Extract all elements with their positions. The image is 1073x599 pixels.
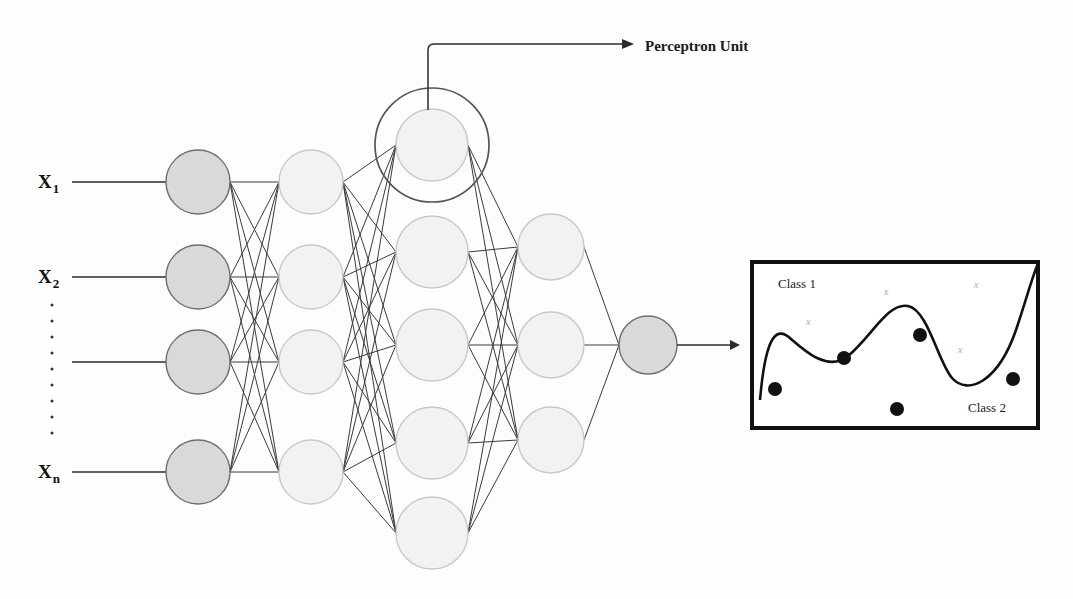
class-1-label: Class 1: [778, 276, 816, 291]
edge: [468, 145, 518, 247]
edge: [343, 145, 396, 472]
leader-path: [428, 44, 624, 110]
class-2-label: Class 2: [968, 400, 1006, 415]
input-label-base: X: [38, 461, 52, 482]
perceptron-leader-line: [428, 39, 634, 110]
node-input-layer-1: [166, 150, 230, 214]
node-hidden-layer-1-2: [279, 245, 343, 309]
input-label-subscript: 2: [53, 276, 60, 291]
perceptron-unit-label: Perceptron Unit: [645, 38, 748, 54]
ellipsis-dot: [51, 304, 54, 307]
ellipsis-dot: [51, 320, 54, 323]
node-hidden-layer-1-4: [279, 440, 343, 504]
ellipsis-dot: [51, 416, 54, 419]
ellipsis-dot: [51, 384, 54, 387]
input-connection-lines: [72, 182, 166, 472]
node-hidden-layer-1-1: [279, 150, 343, 214]
edge: [468, 440, 518, 533]
ellipsis-dot: [51, 336, 54, 339]
node-hidden-layer-3-3: [518, 407, 584, 473]
ellipsis-dot: [51, 352, 54, 355]
input-variable-labels: X1X2Xn: [38, 171, 61, 486]
edge: [343, 182, 396, 345]
classification-box: xxxx Class 1 Class 2: [752, 262, 1038, 428]
input-label-base: X: [38, 171, 52, 192]
edge: [343, 145, 396, 277]
input-label-3: Xn: [38, 461, 61, 486]
class-dot-3: [913, 328, 927, 342]
node-input-layer-2: [166, 245, 230, 309]
input-label-base: X: [38, 266, 52, 287]
node-hidden-layer-3-2: [518, 312, 584, 378]
edge: [584, 345, 619, 440]
node-hidden-layer-3-1: [518, 214, 584, 280]
edge: [343, 252, 396, 277]
leader-arrow-head: [622, 39, 634, 49]
class-dot-1: [768, 382, 782, 396]
node-hidden-layer-2-3: [396, 309, 468, 381]
class-x-mark-2: x: [883, 286, 889, 297]
network-nodes: [166, 109, 677, 569]
node-input-layer-3: [166, 330, 230, 394]
node-hidden-layer-2-2: [396, 216, 468, 288]
node-hidden-layer-2-5: [396, 497, 468, 569]
node-output-layer-1: [619, 316, 677, 374]
input-label-2: X2: [38, 266, 59, 291]
node-input-layer-4: [166, 440, 230, 504]
ellipsis-dot: [51, 368, 54, 371]
node-hidden-layer-2-4: [396, 407, 468, 479]
input-label-1: X1: [38, 171, 59, 196]
class-dot-4: [890, 402, 904, 416]
edge: [468, 247, 518, 252]
neural-network-diagram: Perceptron Unit X1X2Xn xxxx Class 1 Clas…: [0, 0, 1073, 599]
input-label-subscript: n: [53, 471, 61, 486]
class-x-mark-1: x: [805, 316, 811, 327]
input-ellipsis-dots: [51, 304, 54, 435]
ellipsis-dot: [51, 432, 54, 435]
class-x-mark-4: x: [957, 344, 963, 355]
input-label-subscript: 1: [53, 181, 60, 196]
node-hidden-layer-1-3: [279, 330, 343, 394]
figure-canvas: Perceptron Unit X1X2Xn xxxx Class 1 Clas…: [0, 0, 1073, 599]
edge: [343, 252, 396, 472]
class-x-mark-3: x: [973, 279, 979, 290]
edge: [343, 182, 396, 533]
edge: [343, 145, 396, 362]
output-arrow: [677, 340, 740, 350]
edge: [584, 247, 619, 345]
edge: [468, 145, 518, 345]
node-hidden-layer-2-1: [396, 109, 468, 181]
output-arrow-head: [730, 340, 740, 350]
class-dot-5: [1006, 372, 1020, 386]
ellipsis-dot: [51, 400, 54, 403]
edge: [468, 345, 518, 533]
class-dot-2: [837, 351, 851, 365]
